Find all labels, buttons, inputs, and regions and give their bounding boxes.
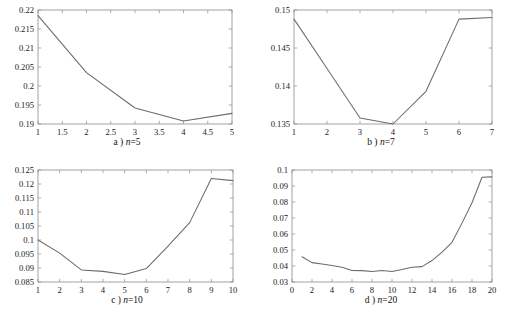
x-tick-label-a-3: 2.5 — [105, 127, 116, 137]
line-chart-a: 11.522.533.544.550.190.1950.20.2050.210.… — [0, 0, 254, 140]
y-tick-label-c-1: 0.09 — [19, 263, 34, 273]
caption-d-suffix: =20 — [382, 295, 397, 305]
x-tick-label-a-8: 5 — [230, 127, 234, 137]
y-tick-label-c-7: 0.12 — [19, 179, 34, 189]
line-chart-d: 024681012141618200.030.040.050.060.070.0… — [254, 160, 508, 300]
y-tick-label-d-0: 0.03 — [273, 277, 288, 287]
x-tick-label-d-6: 12 — [408, 285, 417, 295]
x-tick-label-b-4: 5 — [424, 127, 428, 137]
x-tick-label-a-6: 4 — [181, 127, 186, 137]
chart-panel-b: 12345670.1350.140.1450.15 b ) n=7 — [254, 0, 508, 159]
y-tick-label-c-3: 0.1 — [23, 235, 34, 245]
x-tick-label-c-2: 3 — [79, 285, 83, 295]
plot-frame-d — [292, 170, 492, 282]
y-tick-label-a-0: 0.19 — [19, 119, 34, 129]
x-tick-label-d-4: 8 — [370, 285, 374, 295]
x-tick-label-b-2: 3 — [358, 127, 362, 137]
y-tick-label-b-2: 0.145 — [271, 43, 290, 53]
x-tick-label-d-2: 4 — [330, 285, 335, 295]
line-chart-c: 123456789100.0850.090.0950.10.1050.110.1… — [0, 160, 254, 300]
line-chart-b: 12345670.1350.140.1450.15 — [254, 0, 508, 140]
y-tick-label-d-6: 0.09 — [273, 181, 288, 191]
plot-frame-c — [38, 170, 233, 282]
data-series-c — [38, 178, 233, 274]
x-tick-label-b-0: 1 — [292, 127, 296, 137]
caption-c-prefix: c ) — [111, 295, 123, 305]
y-tick-label-a-1: 0.195 — [15, 100, 34, 110]
caption-b-suffix: =7 — [385, 137, 395, 147]
y-tick-label-d-4: 0.07 — [273, 213, 289, 223]
x-tick-label-a-5: 3.5 — [154, 127, 165, 137]
y-tick-label-d-1: 0.04 — [273, 261, 289, 271]
plot-area-c: 123456789100.0850.090.0950.10.1050.110.1… — [0, 160, 254, 300]
y-tick-label-d-5: 0.08 — [273, 197, 288, 207]
chart-panel-a: 11.522.533.544.550.190.1950.20.2050.210.… — [0, 0, 254, 159]
x-tick-label-b-3: 4 — [391, 127, 396, 137]
caption-a-suffix: =5 — [130, 137, 140, 147]
y-tick-label-a-2: 0.2 — [23, 81, 34, 91]
plot-area-b: 12345670.1350.140.1450.15 — [254, 0, 508, 140]
y-tick-label-d-7: 0.1 — [277, 165, 288, 175]
plot-frame-b — [294, 10, 492, 124]
x-tick-label-a-1: 1.5 — [57, 127, 68, 137]
x-tick-label-d-8: 16 — [448, 285, 457, 295]
y-tick-label-b-1: 0.14 — [275, 81, 291, 91]
chart-panel-d: 024681012141618200.030.040.050.060.070.0… — [254, 160, 508, 319]
x-tick-label-c-3: 4 — [101, 285, 106, 295]
y-tick-label-a-6: 0.22 — [19, 5, 34, 15]
y-tick-label-c-6: 0.115 — [15, 193, 34, 203]
x-tick-label-c-1: 2 — [58, 285, 62, 295]
y-tick-label-b-0: 0.135 — [271, 119, 290, 129]
data-series-a — [38, 16, 232, 121]
x-tick-label-d-10: 20 — [488, 285, 497, 295]
x-tick-label-d-7: 14 — [428, 285, 437, 295]
figure-multi-panel-line-charts: 11.522.533.544.550.190.1950.20.2050.210.… — [0, 0, 508, 319]
caption-c: c ) n=10 — [0, 295, 254, 306]
caption-d: d ) n=20 — [254, 295, 508, 306]
y-tick-label-c-5: 0.11 — [19, 207, 34, 217]
x-tick-label-c-0: 1 — [36, 285, 40, 295]
y-tick-label-a-4: 0.21 — [19, 43, 34, 53]
y-tick-label-c-0: 0.085 — [15, 277, 34, 287]
plot-area-a: 11.522.533.544.550.190.1950.20.2050.210.… — [0, 0, 254, 140]
data-series-d — [302, 177, 492, 272]
plot-frame-a — [38, 10, 232, 124]
x-tick-label-c-6: 7 — [166, 285, 171, 295]
x-tick-label-c-5: 6 — [144, 285, 149, 295]
x-tick-label-d-1: 2 — [310, 285, 314, 295]
x-tick-label-a-4: 3 — [133, 127, 137, 137]
y-tick-label-a-3: 0.205 — [15, 62, 34, 72]
x-tick-label-a-7: 4.5 — [202, 127, 213, 137]
x-tick-label-d-0: 0 — [290, 285, 294, 295]
data-series-b — [294, 18, 492, 124]
y-tick-label-b-3: 0.15 — [275, 5, 290, 15]
x-tick-label-a-2: 2 — [84, 127, 88, 137]
caption-b-prefix: b ) — [367, 137, 380, 147]
x-tick-label-b-1: 2 — [325, 127, 329, 137]
x-tick-label-c-9: 10 — [229, 285, 238, 295]
caption-d-prefix: d ) — [365, 295, 378, 305]
x-tick-label-c-4: 5 — [123, 285, 127, 295]
y-tick-label-d-3: 0.06 — [273, 229, 289, 239]
caption-b: b ) n=7 — [254, 137, 508, 148]
y-tick-label-c-8: 0.125 — [15, 165, 34, 175]
x-tick-label-b-6: 7 — [490, 127, 495, 137]
x-tick-label-c-7: 8 — [188, 285, 192, 295]
chart-panel-c: 123456789100.0850.090.0950.10.1050.110.1… — [0, 160, 254, 319]
x-tick-label-c-8: 9 — [209, 285, 213, 295]
y-tick-label-c-2: 0.095 — [15, 249, 34, 259]
caption-a-prefix: a ) — [114, 137, 126, 147]
y-tick-label-d-2: 0.05 — [273, 245, 288, 255]
y-tick-label-a-5: 0.215 — [15, 24, 34, 34]
plot-area-d: 024681012141618200.030.040.050.060.070.0… — [254, 160, 508, 300]
x-tick-label-b-5: 6 — [457, 127, 462, 137]
x-tick-label-d-3: 6 — [350, 285, 355, 295]
x-tick-label-d-9: 18 — [468, 285, 477, 295]
y-tick-label-c-4: 0.105 — [15, 221, 34, 231]
x-tick-label-d-5: 10 — [388, 285, 397, 295]
x-tick-label-a-0: 1 — [36, 127, 40, 137]
caption-a: a ) n=5 — [0, 137, 254, 148]
caption-c-suffix: =10 — [128, 295, 143, 305]
